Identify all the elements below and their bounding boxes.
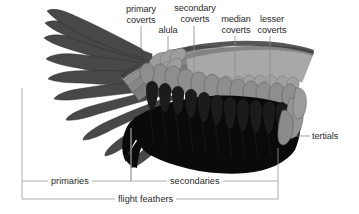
bracket-label-primaries: primaries	[48, 176, 92, 186]
bracket-label-flight-feathers: flight feathers	[115, 194, 176, 204]
label-lesser-coverts: lesser coverts	[245, 14, 299, 35]
label-tertials: tertials	[312, 131, 356, 142]
bracket-label-secondaries: secondaries	[167, 176, 223, 186]
wing-anatomy-diagram: primary covertsalulasecondary covertsmed…	[0, 0, 359, 214]
label-alula: alula	[145, 25, 191, 36]
